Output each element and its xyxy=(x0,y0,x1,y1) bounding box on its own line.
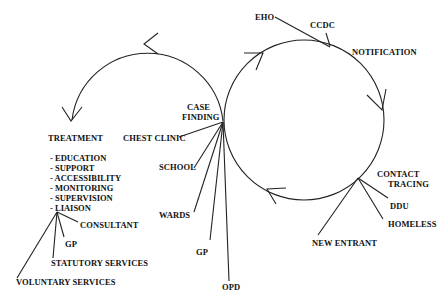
statutory-services-label: STATUTORY SERVICES xyxy=(51,258,148,268)
gp-case-finding-label: GP xyxy=(196,247,208,257)
cycle-diagram-lines xyxy=(0,0,445,300)
case-finding-label-1: CASE xyxy=(187,102,210,112)
ddu-line xyxy=(358,178,388,198)
statutory-line xyxy=(53,212,57,258)
wards-line xyxy=(194,122,223,212)
homeless-label: HOMELESS xyxy=(388,219,437,229)
voluntary-services-label: VOLUNTARY SERVICES xyxy=(16,277,116,287)
arrow-treatment-down xyxy=(62,107,82,121)
case-finding-label-2: FINDING xyxy=(182,112,220,122)
treatment-aspect: - ACCESSIBILITY xyxy=(50,173,121,183)
tb-control-cycle-circle xyxy=(224,40,384,200)
treatment-aspects-list: - EDUCATION - SUPPORT - ACCESSIBILITY - … xyxy=(50,153,121,213)
ddu-label: DDU xyxy=(390,201,409,211)
arrow-left-arc-top xyxy=(144,33,158,54)
treatment-aspect: - EDUCATION xyxy=(50,153,121,163)
contact-tracing-label-1: CONTACT xyxy=(377,169,420,179)
voluntary-line xyxy=(17,212,57,278)
consultant-label: CONSULTANT xyxy=(80,220,139,230)
gp-treatment-label: GP xyxy=(65,239,77,249)
treatment-label: TREATMENT xyxy=(48,133,103,143)
eho-label: EHO xyxy=(255,12,274,22)
new-entrant-label: NEW ENTRANT xyxy=(312,238,377,248)
ccdc-label: CCDC xyxy=(310,20,335,30)
chest-clinic-label: CHEST CLINIC xyxy=(123,133,186,143)
school-label: SCHOOL xyxy=(159,162,196,172)
treatment-aspect: - SUPERVISION xyxy=(50,193,121,203)
treatment-aspect: - MONITORING xyxy=(50,183,121,193)
opd-label: OPD xyxy=(222,282,240,292)
treatment-aspect: - SUPPORT xyxy=(50,163,121,173)
notification-label: NOTIFICATION xyxy=(352,47,417,57)
gp-treatment-line xyxy=(57,212,64,237)
homeless-line xyxy=(358,178,383,219)
wards-label: WARDS xyxy=(159,210,190,220)
arrow-right xyxy=(367,89,386,110)
arrow-bottom xyxy=(267,188,286,204)
new-entrant-line xyxy=(318,178,358,235)
treatment-aspect: - LIAISON xyxy=(50,203,121,213)
arrow-top-left xyxy=(244,53,263,70)
consultant-line xyxy=(57,212,78,222)
contact-tracing-label-2: TRACING xyxy=(388,179,429,189)
